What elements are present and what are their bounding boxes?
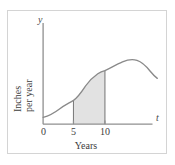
shaded-area-region	[73, 71, 104, 124]
y-axis-title: Inches per year	[12, 36, 38, 112]
x-tick-label-5: 5	[68, 127, 79, 137]
x-tick-label-0: 0	[38, 127, 49, 137]
y-axis-title-line-2: per year	[24, 80, 34, 112]
x-axis-variable-label: t	[156, 113, 159, 123]
x-tick-label-10: 10	[97, 127, 113, 137]
figure-container: y t 0 5 10 Years Inches per year	[0, 0, 175, 165]
y-axis-title-line-1: Inches	[13, 86, 23, 112]
y-axis-variable-label: y	[38, 15, 42, 25]
x-axis-title: Years	[52, 141, 120, 151]
